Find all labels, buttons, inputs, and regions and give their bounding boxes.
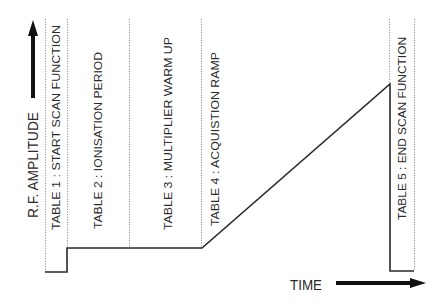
y-axis-label: R.F. AMPLITUDE	[24, 112, 41, 218]
table-4-label: TABLE 4 : ACQUISTION RAMP	[209, 52, 221, 226]
amplitude-arrow-icon	[28, 20, 38, 98]
x-axis-label: TIME	[290, 277, 322, 293]
time-arrow-icon	[336, 278, 426, 288]
table-2-label: TABLE 2 : IONISATION PERIOD	[92, 52, 104, 229]
rf-scan-diagram: R.F. AMPLITUDE TIME TABLE 1 : START SCAN…	[0, 0, 444, 304]
table-1-label: TABLE 1 : START SCAN FUNCTION	[50, 25, 62, 230]
table-3-label: TABLE 3 : MULTIPLIER WARM UP	[162, 37, 174, 230]
table-5-label: TABLE 5 : END SCAN FUNCTION	[396, 37, 408, 220]
